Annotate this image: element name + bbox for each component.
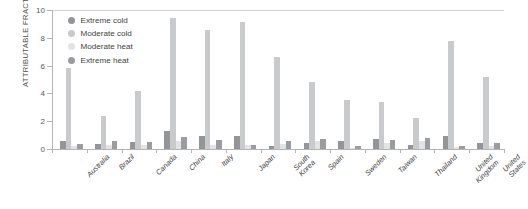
x-tick (226, 149, 227, 153)
bar (135, 91, 141, 149)
legend-item: Extreme heat (68, 54, 188, 67)
y-tick-label: 2 (41, 117, 45, 126)
bar (286, 141, 292, 149)
x-tick (330, 149, 331, 153)
y-tick (47, 66, 52, 67)
x-axis-label: Japan (257, 153, 277, 173)
bar (344, 100, 350, 149)
legend-label: Moderate cold (81, 29, 132, 38)
bar-group (199, 10, 221, 149)
x-axis-line (52, 149, 504, 150)
legend-label: Extreme heat (81, 56, 129, 65)
x-axis-label: United Kingdom (468, 153, 501, 186)
bar (309, 82, 315, 149)
legend-label: Extreme cold (81, 16, 128, 25)
y-axis-title: ATTRIBUTABLE FRACTION (%) (21, 0, 30, 97)
bar-group (304, 10, 326, 149)
x-axis-label: China (187, 153, 207, 173)
bar (494, 143, 500, 149)
x-axis-label: Canada (155, 153, 179, 177)
y-tick-label: 4 (41, 89, 45, 98)
y-tick-label: 0 (41, 145, 45, 154)
x-axis-label: South Korea (292, 153, 318, 179)
x-tick (122, 149, 123, 153)
bar (205, 30, 211, 149)
y-tick (47, 93, 52, 94)
y-tick (47, 121, 52, 122)
x-axis-label: Spain (326, 153, 345, 172)
bar (112, 141, 118, 149)
x-tick (191, 149, 192, 153)
bar-group (408, 10, 430, 149)
bar (483, 77, 489, 149)
x-tick (504, 149, 505, 153)
bar (240, 22, 246, 149)
bar (390, 140, 396, 149)
bar (66, 68, 72, 149)
x-axis-label: Sweden (363, 153, 388, 178)
legend-marker-icon (68, 30, 75, 37)
bar (320, 139, 326, 149)
x-tick (365, 149, 366, 153)
x-tick (295, 149, 296, 153)
bar (274, 57, 280, 149)
legend-label: Moderate heat (81, 42, 133, 51)
bar-group (234, 10, 256, 149)
x-axis-label: Thailand (433, 153, 459, 179)
legend-item: Extreme cold (68, 14, 188, 27)
x-tick (156, 149, 157, 153)
legend-marker-icon (68, 17, 75, 24)
legend-marker-icon (68, 57, 75, 64)
bar (425, 138, 431, 149)
x-axis-label: United States (501, 153, 528, 180)
x-tick (400, 149, 401, 153)
bar-group (443, 10, 465, 149)
bar (77, 144, 83, 149)
x-tick (87, 149, 88, 153)
bar (181, 137, 187, 149)
chart-legend: Extreme coldModerate coldModerate heatEx… (68, 14, 188, 67)
x-axis-label: Australia (86, 153, 112, 179)
legend-marker-icon (68, 43, 75, 50)
bar-group (477, 10, 499, 149)
y-tick-label: 8 (41, 33, 45, 42)
x-tick (261, 149, 262, 153)
bar (448, 41, 454, 149)
x-tick (52, 149, 53, 153)
y-tick (47, 10, 52, 11)
bar (355, 146, 361, 149)
x-axis-label: Brazil (118, 153, 137, 172)
legend-item: Moderate cold (68, 27, 188, 40)
y-tick-label: 10 (36, 6, 45, 15)
bar (216, 140, 222, 149)
bar-group (338, 10, 360, 149)
x-axis-label: Taiwan (397, 153, 419, 175)
y-tick-label: 6 (41, 61, 45, 70)
y-tick (47, 38, 52, 39)
y-axis-line (52, 10, 53, 149)
x-tick (434, 149, 435, 153)
bar-group (269, 10, 291, 149)
bar (251, 145, 257, 149)
bar (459, 146, 465, 149)
bar-group (373, 10, 395, 149)
bar (147, 142, 153, 149)
legend-item: Moderate heat (68, 40, 188, 53)
x-tick (469, 149, 470, 153)
x-axis-label: Italy (220, 153, 236, 169)
